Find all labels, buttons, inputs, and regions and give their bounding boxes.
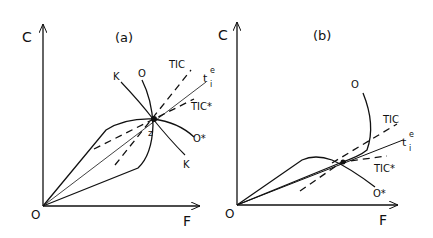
k-top-label: K — [113, 71, 120, 82]
te-sub: i — [409, 144, 411, 153]
o-star-curve — [237, 157, 375, 205]
o-label: O — [351, 79, 359, 90]
origin-label: O — [31, 208, 40, 222]
panel-title: (b) — [313, 28, 331, 43]
origin-label: O — [225, 207, 234, 221]
te-label: t — [203, 72, 208, 85]
te-label: t — [402, 136, 407, 149]
o-label: O — [138, 68, 146, 79]
equilibrium-point — [151, 116, 157, 122]
diagram-canvas: C F O (a) TIC TIC* t e i O O* K K z — [0, 0, 433, 238]
z-label: z — [148, 128, 153, 138]
tic-curve — [332, 124, 397, 163]
o-star-label: O* — [193, 133, 206, 144]
tic-star-curve — [94, 99, 194, 149]
o-star-curve — [43, 119, 194, 206]
tic-label: TIC — [168, 59, 185, 70]
tic-star-label: TIC* — [373, 163, 395, 174]
te-sup: e — [210, 66, 215, 75]
o-star-label: O* — [373, 188, 386, 199]
tic-label: TIC — [382, 114, 399, 125]
equilibrium-point — [341, 160, 346, 165]
k-bottom-label: K — [183, 159, 190, 170]
panel-a: C F O (a) TIC TIC* t e i O O* K K z — [22, 24, 215, 229]
panel-b: C F O (b) O TIC t e i TIC* O* — [218, 22, 414, 228]
te-sup: e — [409, 130, 414, 139]
y-axis-label: C — [22, 29, 32, 45]
te-sub: i — [210, 80, 212, 89]
x-axis-label: F — [183, 213, 191, 229]
y-axis-label: C — [218, 27, 228, 43]
te-ray — [43, 82, 206, 206]
tic-star-label: TIC* — [190, 101, 212, 112]
x-axis-label: F — [379, 212, 387, 228]
panel-title: (a) — [115, 30, 133, 45]
